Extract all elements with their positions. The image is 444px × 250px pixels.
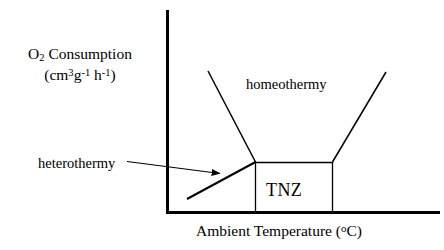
homeothermy-label: homeothermy [246,76,327,93]
x-axis-label: Ambient Temperature (oC) [196,222,362,240]
heterothermy-line [187,162,256,199]
heterothermy-pointer-arrow [127,162,220,174]
tnz-figure: O2 Consumption (cm3g-1 h-1) Ambient Temp… [0,0,444,250]
tnz-label: TNZ [266,180,302,201]
y-axis-label-line2: (cm3g-1 h-1) [0,65,160,85]
y-axis-label: O2 Consumption (cm3g-1 h-1) [0,44,160,85]
heterothermy-label: heterothermy [38,155,115,172]
plot-area [0,0,444,250]
heat-side-metabolic-line [333,72,387,162]
y-axis-label-line1: O2 Consumption [28,45,132,62]
